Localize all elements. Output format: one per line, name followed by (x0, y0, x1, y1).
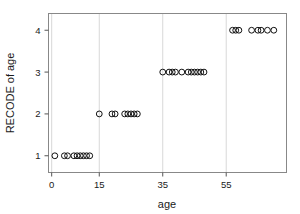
y-axis-label: RECODE of age (4, 53, 16, 134)
y-axis-tick-labels: 1234 (35, 25, 40, 162)
y-axis-ticks (45, 30, 49, 156)
data-point (265, 27, 271, 33)
scatter-plot-figure: 0153555 1234 age RECODE of age (0, 0, 300, 214)
x-tick-label: 0 (49, 179, 54, 190)
y-tick-label: 4 (35, 25, 40, 36)
data-point (52, 153, 58, 159)
data-points-group (52, 27, 277, 158)
x-axis-tick-labels: 0153555 (49, 179, 231, 190)
data-point (249, 27, 255, 33)
data-point (271, 27, 277, 33)
x-axis-ticks (52, 173, 227, 177)
y-tick-label: 3 (35, 67, 40, 78)
y-tick-label: 2 (35, 108, 40, 119)
plot-frame (49, 14, 287, 173)
x-axis-label: age (158, 198, 176, 210)
x-tick-label: 55 (221, 179, 232, 190)
x-tick-label: 35 (157, 179, 168, 190)
gridlines-group (52, 14, 227, 173)
data-point (179, 69, 185, 75)
x-tick-label: 15 (94, 179, 105, 190)
y-tick-label: 1 (35, 150, 40, 161)
plot-canvas: 0153555 1234 age RECODE of age (0, 0, 300, 214)
